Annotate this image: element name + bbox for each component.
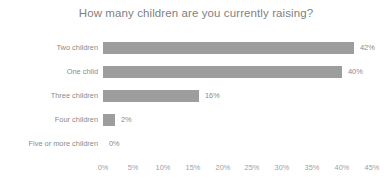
category-label: Three children [0,84,98,108]
bar[interactable] [103,90,199,102]
value-label: 16% [205,84,220,108]
category-label: Five or more children [0,132,98,156]
bar-track: 40% [103,60,392,84]
category-label: Four children [0,108,98,132]
value-label: 2% [121,108,132,132]
bar-row: One child 40% [0,60,392,84]
x-axis: 0% 5% 10% 15% 20% 25% 30% 35% 40% 45% [0,163,392,179]
value-label: 0% [109,132,120,156]
bar[interactable] [103,114,115,126]
chart-title: How many children are you currently rais… [0,7,392,19]
bar-row: Four children 2% [0,108,392,132]
value-label: 42% [360,36,375,60]
x-axis-tick: 45% [352,163,392,172]
bar-track: 16% [103,84,392,108]
bar-row: Five or more children 0% [0,132,392,156]
bar[interactable] [103,66,342,78]
bar-track: 0% [103,132,392,156]
bar-track: 2% [103,108,392,132]
value-label: 40% [348,60,363,84]
bar-track: 42% [103,36,392,60]
bar-row: Two children 42% [0,36,392,60]
plot-area: Two children 42% One child 40% Three chi… [0,36,392,160]
bar-chart: How many children are you currently rais… [0,0,392,193]
bar-row: Three children 16% [0,84,392,108]
bar[interactable] [103,42,354,54]
category-label: One child [0,60,98,84]
category-label: Two children [0,36,98,60]
